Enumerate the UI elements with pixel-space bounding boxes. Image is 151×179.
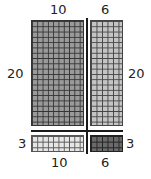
horizontal-divider: [31, 130, 123, 132]
left-label-20: 20: [7, 67, 24, 80]
grid-bottom-left: [31, 135, 84, 152]
bottom-label-6: 6: [101, 156, 109, 169]
vertical-divider: [86, 18, 88, 154]
top-label-6: 6: [101, 3, 109, 16]
bottom-label-10: 10: [51, 156, 68, 169]
left-label-3: 3: [18, 137, 26, 150]
grid-top-left: [31, 20, 84, 126]
grid-bottom-right: [90, 135, 123, 152]
right-label-3: 3: [126, 137, 134, 150]
right-label-20: 20: [128, 67, 145, 80]
top-label-10: 10: [50, 3, 67, 16]
grid-top-right: [90, 20, 123, 126]
